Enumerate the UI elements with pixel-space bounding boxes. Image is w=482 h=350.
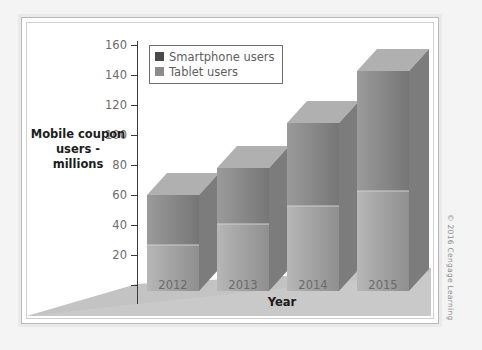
legend-item-tablet[interactable]: Tablet users xyxy=(155,64,275,79)
legend-swatch-tablet-icon xyxy=(155,67,164,76)
legend-label-tablet: Tablet users xyxy=(169,65,238,79)
y-axis-title-line2: users - millions xyxy=(53,142,104,171)
bar-2013[interactable] xyxy=(217,146,293,291)
legend-item-smartphone[interactable]: Smartphone users xyxy=(155,49,275,64)
bar-2012[interactable] xyxy=(147,173,223,291)
figure-root: 160 140 120 100 80 60 40 20 Mobile coupo… xyxy=(0,0,482,350)
x-tick-label-2014: 2014 xyxy=(283,278,343,292)
chart-legend: Smartphone users Tablet users xyxy=(149,45,283,84)
bar-2014-segment-smartphone xyxy=(287,123,339,206)
y-tick-label-140: 140 xyxy=(93,68,127,82)
legend-label-smartphone: Smartphone users xyxy=(169,50,275,64)
bar-2014[interactable] xyxy=(287,101,363,291)
y-tick-label-40: 40 xyxy=(93,218,127,232)
y-axis-title-line1: Mobile coupon xyxy=(31,127,126,141)
y-tick-label-20: 20 xyxy=(93,248,127,262)
x-tick-label-2012: 2012 xyxy=(143,278,203,292)
x-tick-label-2013: 2013 xyxy=(213,278,273,292)
bar-2015-segment-tablet xyxy=(357,191,409,291)
bar-2013-side-face xyxy=(269,146,289,291)
bar-2015-side-face xyxy=(409,49,429,291)
x-tick-label-2015: 2015 xyxy=(353,278,413,292)
copyright-notice: © 2016 Cengage Learning xyxy=(446,214,455,321)
bar-2013-segment-smartphone xyxy=(217,168,269,224)
bar-2015-segment-smartphone xyxy=(357,71,409,191)
y-tick-label-120: 120 xyxy=(93,98,127,112)
y-tick-label-160: 160 xyxy=(93,38,127,52)
y-axis-title: Mobile coupon users - millions xyxy=(29,127,127,172)
bar-2014-side-face xyxy=(339,101,359,291)
bar-2012-segment-smartphone xyxy=(147,195,199,245)
x-axis-title: Year xyxy=(137,295,427,309)
legend-swatch-smartphone-icon xyxy=(155,52,164,61)
bar-2015[interactable] xyxy=(357,49,431,291)
chart-plot-area: 160 140 120 100 80 60 40 20 Mobile coupo… xyxy=(27,23,431,316)
y-tick-label-60: 60 xyxy=(93,188,127,202)
